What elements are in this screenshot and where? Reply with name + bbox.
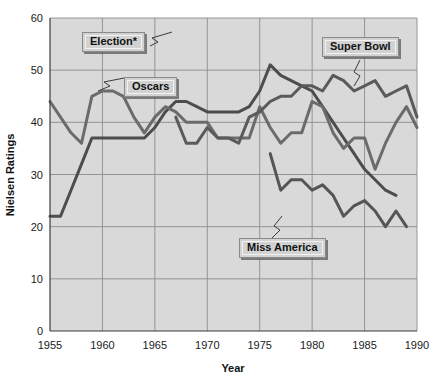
nielsen-ratings-chart: 0102030405060 19551960196519701975198019… — [0, 0, 438, 377]
y-axis-title: Nielsen Ratings — [4, 134, 16, 217]
callout-miss-america: Miss America — [239, 238, 326, 258]
y-tick-label: 0 — [37, 325, 43, 337]
callout-oscars-label: Oscars — [132, 80, 169, 92]
x-tick-labels: 19551960196519701975198019851990 — [38, 339, 429, 351]
x-tick-label: 1980 — [300, 339, 324, 351]
y-tick-label: 20 — [31, 221, 43, 233]
callout-election: Election* — [82, 32, 145, 52]
x-tick-label: 1990 — [405, 339, 429, 351]
callout-oscars: Oscars — [124, 77, 177, 97]
y-tick-label: 50 — [31, 64, 43, 76]
callout-election-label: Election* — [90, 35, 137, 47]
callout-super-bowl-label: Super Bowl — [330, 40, 391, 52]
callout-miss-america-label: Miss America — [247, 241, 318, 253]
x-tick-label: 1970 — [195, 339, 219, 351]
x-tick-label: 1960 — [90, 339, 114, 351]
x-tick-label: 1975 — [247, 339, 271, 351]
y-tick-label: 30 — [31, 169, 43, 181]
x-tick-label: 1955 — [38, 339, 62, 351]
y-tick-labels: 0102030405060 — [31, 12, 43, 337]
y-tick-label: 40 — [31, 116, 43, 128]
x-tick-label: 1965 — [143, 339, 167, 351]
y-tick-label: 60 — [31, 12, 43, 24]
y-tick-label: 10 — [31, 273, 43, 285]
callout-super-bowl: Super Bowl — [322, 37, 399, 57]
x-tick-label: 1985 — [352, 339, 376, 351]
x-axis-title: Year — [221, 362, 245, 374]
